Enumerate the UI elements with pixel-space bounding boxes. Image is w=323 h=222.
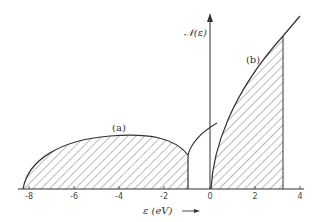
band-b-label: (b)	[246, 54, 260, 65]
density-of-states-diagram: -8 -6 -4 -2 0 2 4 𝒩(ε) (a) (b) ε (eV)	[0, 0, 323, 222]
tick-label: -2	[160, 192, 168, 201]
y-axis-arrow-icon	[207, 13, 213, 22]
tick-label: -4	[115, 192, 123, 201]
band-a-region	[23, 135, 188, 189]
tick-label: 0	[207, 192, 212, 201]
tick-label: 2	[252, 192, 257, 201]
x-axis-label: ε (eV)	[143, 205, 173, 216]
tick-label: -8	[25, 192, 33, 201]
y-axis-label: 𝒩(ε)	[184, 27, 207, 38]
tick-label: 4	[297, 192, 302, 201]
tick-label: -6	[70, 192, 78, 201]
band-a-label: (a)	[112, 122, 126, 133]
arrow-right-icon	[194, 209, 200, 213]
unhatched-curve	[188, 123, 217, 155]
